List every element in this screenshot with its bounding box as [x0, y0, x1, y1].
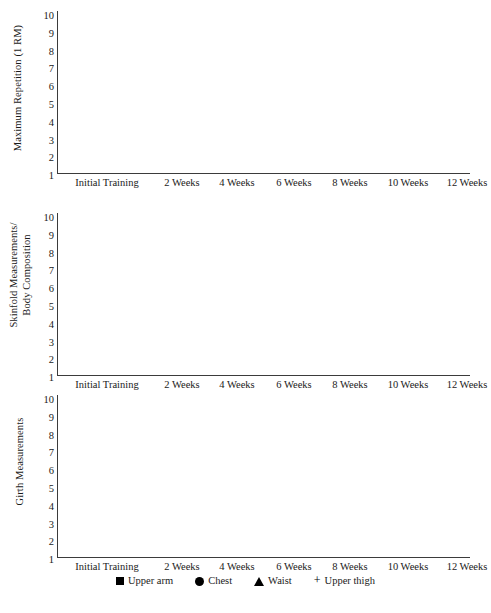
y-axis-title-panel-1: Maximum Repetition (1 RM) — [12, 8, 24, 168]
y-tick-2: 2 — [38, 536, 54, 547]
x-tick-12-weeks: 12 Weeks — [434, 176, 491, 190]
y-tick-6: 6 — [38, 283, 54, 294]
y-tick-3: 3 — [38, 519, 54, 530]
legend-label-waist: Waist — [268, 575, 292, 587]
y-axis-title-line-1: Skinfold Measurements/ — [8, 190, 21, 360]
y-axis-title-line-2: Body Composition — [21, 190, 34, 360]
x-axis-tick-labels-panel-1: Initial Training 2 Weeks 4 Weeks 6 Weeks… — [57, 176, 470, 190]
legend-item-waist: Waist — [254, 575, 292, 587]
y-tick-5: 5 — [38, 483, 54, 494]
y-tick-9: 9 — [38, 412, 54, 423]
y-tick-3: 3 — [38, 337, 54, 348]
legend-label-upper-arm: Upper arm — [128, 575, 173, 587]
chart-panel-skinfold-body-composition: Skinfold Measurements/ Body Composition … — [0, 190, 491, 386]
y-axis-title-panel-3: Girth Measurements — [14, 389, 26, 534]
filled-square-icon — [116, 577, 124, 585]
y-tick-7: 7 — [38, 447, 54, 458]
x-axis-line-panel-3 — [57, 557, 470, 558]
plot-area-panel-2 — [58, 213, 470, 375]
filled-circle-icon — [195, 577, 204, 586]
y-axis-title-panel-2: Skinfold Measurements/ Body Composition — [8, 190, 33, 360]
y-axis-line-panel-3 — [57, 395, 58, 558]
y-axis-tick-labels-panel-3: 10 9 8 7 6 5 4 3 2 1 — [38, 394, 54, 559]
y-tick-4: 4 — [38, 117, 54, 128]
x-tick-10-weeks: 10 Weeks — [375, 176, 441, 190]
plot-area-panel-1 — [58, 11, 470, 173]
chart-legend: Upper arm Chest Waist + Upper thigh — [0, 571, 491, 591]
x-tick-initial-training: Initial Training — [62, 176, 152, 190]
plus-icon: + — [314, 574, 321, 586]
y-tick-4: 4 — [38, 319, 54, 330]
x-tick-8-weeks: 8 Weeks — [320, 176, 380, 190]
y-tick-10: 10 — [38, 10, 54, 21]
x-tick-2-weeks: 2 Weeks — [152, 176, 212, 190]
y-tick-1: 1 — [38, 170, 54, 181]
y-axis-line-panel-2 — [57, 213, 58, 376]
y-tick-8: 8 — [38, 46, 54, 57]
y-tick-7: 7 — [38, 63, 54, 74]
legend-item-chest: Chest — [195, 575, 232, 587]
chart-panel-maximum-repetition: Maximum Repetition (1 RM) 10 9 8 7 6 5 4… — [0, 0, 491, 196]
y-tick-7: 7 — [38, 265, 54, 276]
y-tick-2: 2 — [38, 152, 54, 163]
y-tick-6: 6 — [38, 81, 54, 92]
y-axis-title-line-1: Girth Measurements — [14, 389, 26, 534]
x-tick-4-weeks: 4 Weeks — [207, 176, 267, 190]
x-axis-line-panel-1 — [57, 173, 470, 174]
y-tick-2: 2 — [38, 354, 54, 365]
filled-triangle-icon — [254, 577, 264, 586]
legend-label-upper-thigh: Upper thigh — [325, 575, 375, 587]
plot-area-panel-3 — [58, 395, 470, 557]
chart-panel-girth-measurements: Girth Measurements 10 9 8 7 6 5 4 3 2 1 … — [0, 372, 491, 568]
y-tick-10: 10 — [38, 212, 54, 223]
y-tick-9: 9 — [38, 230, 54, 241]
y-tick-10: 10 — [38, 394, 54, 405]
legend-item-upper-thigh: + Upper thigh — [314, 575, 375, 587]
y-tick-4: 4 — [38, 501, 54, 512]
y-tick-8: 8 — [38, 430, 54, 441]
legend-label-chest: Chest — [208, 575, 232, 587]
y-axis-tick-labels-panel-2: 10 9 8 7 6 5 4 3 2 1 — [38, 212, 54, 377]
y-tick-8: 8 — [38, 248, 54, 259]
y-tick-5: 5 — [38, 301, 54, 312]
y-axis-title-line-1: Maximum Repetition (1 RM) — [12, 8, 24, 168]
y-tick-6: 6 — [38, 465, 54, 476]
y-tick-9: 9 — [38, 28, 54, 39]
x-tick-6-weeks: 6 Weeks — [264, 176, 324, 190]
legend-item-upper-arm: Upper arm — [116, 575, 173, 587]
y-axis-line-panel-1 — [57, 11, 58, 174]
y-tick-3: 3 — [38, 135, 54, 146]
y-tick-5: 5 — [38, 99, 54, 110]
y-axis-tick-labels-panel-1: 10 9 8 7 6 5 4 3 2 1 — [38, 10, 54, 175]
y-tick-1: 1 — [38, 554, 54, 565]
